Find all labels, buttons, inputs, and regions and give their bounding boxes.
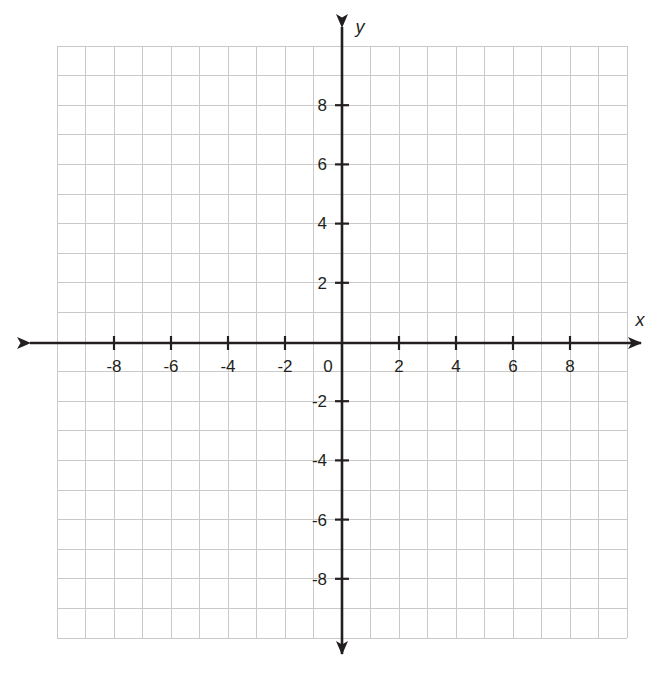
y-tick-label--6: -6 [312,511,327,530]
coordinate-plane-canvas: -8 -6 -4 -2 2 4 6 8 0 8 6 4 2 -2 -4 -6 -… [0,0,665,676]
y-tick-label-4: 4 [318,214,327,233]
x-tick-label--4: -4 [220,357,235,376]
x-axis-label: x [635,310,646,330]
x-tick-label-4: 4 [451,357,460,376]
y-tick-label--4: -4 [312,451,327,470]
x-tick-label-2: 2 [394,357,403,376]
figure-background [0,0,665,676]
y-tick-label--2: -2 [312,392,327,411]
y-tick-label-8: 8 [318,96,327,115]
origin-label: 0 [323,357,332,376]
x-tick-label--8: -8 [106,357,121,376]
y-tick-label--8: -8 [312,570,327,589]
x-tick-label-8: 8 [565,357,574,376]
y-axis-label: y [354,17,366,37]
y-tick-label-6: 6 [318,155,327,174]
coordinate-plane-figure: -8 -6 -4 -2 2 4 6 8 0 8 6 4 2 -2 -4 -6 -… [0,0,665,676]
x-tick-label--6: -6 [163,357,178,376]
y-tick-label-2: 2 [318,274,327,293]
x-tick-label-6: 6 [508,357,517,376]
x-tick-label--2: -2 [277,357,292,376]
